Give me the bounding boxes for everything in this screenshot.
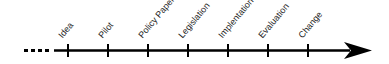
- dotted-lead-in: [24, 49, 49, 52]
- policy-timeline: Idea Pilot Policy Paper Legislation Impl…: [0, 0, 389, 64]
